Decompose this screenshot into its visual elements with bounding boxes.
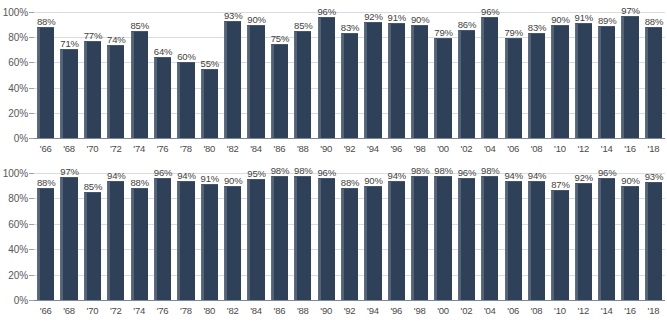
bar-cell: 88% — [642, 12, 665, 138]
bar-value-label: 79% — [504, 27, 522, 38]
bar-cell: 55% — [198, 12, 221, 138]
axis-baseline — [34, 300, 665, 301]
bar-cell: 64% — [151, 12, 174, 138]
bar: 88% — [341, 188, 358, 300]
bar-value-label: 85% — [84, 181, 102, 192]
x-tick-label: '98 — [408, 140, 431, 158]
bar-value-label: 93% — [645, 171, 663, 182]
x-tick-label: '18 — [642, 302, 665, 320]
bar-cell: 96% — [315, 173, 338, 300]
x-tick-label: '16 — [618, 140, 641, 158]
chart-page: 100%80%60%40%20%0% 88%71%77%74%85%64%60%… — [0, 0, 667, 322]
bar: 75% — [271, 44, 288, 139]
x-tick-label: '80 — [198, 140, 221, 158]
y-tick-label: 80% — [8, 32, 28, 43]
x-tick-label: '84 — [244, 140, 267, 158]
bar-cell: 87% — [548, 173, 571, 300]
bar: 74% — [107, 45, 124, 138]
x-tick-label: '78 — [174, 140, 197, 158]
bar-cell: 90% — [361, 173, 384, 300]
y-tick-label: 0% — [14, 295, 28, 306]
bar-value-label: 71% — [60, 38, 78, 49]
x-tick-label: '66 — [34, 302, 57, 320]
bar: 79% — [505, 38, 522, 138]
bar: 85% — [84, 192, 101, 300]
bar: 96% — [154, 178, 171, 300]
bar-cell: 94% — [525, 173, 548, 300]
bar-value-label: 86% — [458, 19, 476, 30]
bar-cell: 88% — [34, 12, 57, 138]
x-tick-label: '14 — [595, 140, 618, 158]
bar-cell: 85% — [128, 12, 151, 138]
bar-cell: 88% — [338, 173, 361, 300]
bar: 89% — [598, 26, 615, 138]
bar: 90% — [621, 186, 638, 300]
bar-cell: 93% — [642, 173, 665, 300]
bar: 94% — [177, 181, 194, 300]
y-tick-label: 80% — [8, 193, 28, 204]
x-tick-label: '66 — [34, 140, 57, 158]
bar-cell: 90% — [244, 12, 267, 138]
bar-cell: 79% — [502, 12, 525, 138]
bar-cell: 96% — [478, 12, 501, 138]
bar-value-label: 91% — [201, 173, 219, 184]
bar: 97% — [621, 16, 638, 138]
bar: 98% — [271, 176, 288, 300]
bar: 98% — [411, 176, 428, 300]
bar: 91% — [201, 184, 218, 300]
bar-value-label: 98% — [434, 165, 452, 176]
bar-cell: 91% — [198, 173, 221, 300]
bar: 86% — [458, 30, 475, 138]
x-tick-label: '84 — [244, 302, 267, 320]
bar: 90% — [411, 25, 428, 138]
x-tick-label: '02 — [455, 140, 478, 158]
plot-area-top: 88%71%77%74%85%64%60%55%93%90%75%85%96%8… — [34, 12, 665, 138]
bar: 93% — [645, 182, 662, 300]
bar: 97% — [60, 177, 77, 300]
x-tick-label: '86 — [268, 140, 291, 158]
bar: 95% — [247, 179, 264, 300]
x-tick-label: '76 — [151, 140, 174, 158]
y-tick-label: 100% — [3, 7, 28, 18]
x-tick-label: '04 — [478, 302, 501, 320]
x-tick-label: '80 — [198, 302, 221, 320]
bar-value-label: 60% — [177, 51, 195, 62]
bar-cell: 79% — [431, 12, 454, 138]
bar-value-label: 95% — [247, 168, 265, 179]
x-tick-label: '08 — [525, 140, 548, 158]
bar-value-label: 96% — [317, 167, 335, 178]
bar: 91% — [575, 23, 592, 138]
x-tick-label: '82 — [221, 302, 244, 320]
bar-value-label: 85% — [130, 20, 148, 31]
bar-cell: 97% — [57, 173, 80, 300]
bar: 85% — [131, 31, 148, 138]
x-tick-label: '68 — [57, 302, 80, 320]
bar-value-label: 55% — [201, 58, 219, 69]
bar-value-label: 96% — [481, 6, 499, 17]
bar: 64% — [154, 57, 171, 138]
bar-value-label: 98% — [294, 165, 312, 176]
bar-value-label: 91% — [388, 12, 406, 23]
bar-value-label: 90% — [621, 175, 639, 186]
bar: 88% — [645, 27, 662, 138]
x-axis-labels-bottom: '66'68'70'72'74'76'78'80'82'84'86'88'90'… — [34, 302, 665, 320]
bar-cell: 88% — [128, 173, 151, 300]
bar-cell: 96% — [315, 12, 338, 138]
bar-cell: 94% — [502, 173, 525, 300]
bar: 83% — [528, 33, 545, 138]
x-tick-label: '12 — [572, 302, 595, 320]
bar: 88% — [131, 188, 148, 300]
y-tick-mark — [29, 138, 34, 139]
bar: 77% — [84, 41, 101, 138]
bar-series-top: 88%71%77%74%85%64%60%55%93%90%75%85%96%8… — [34, 12, 665, 138]
x-tick-label: '00 — [431, 140, 454, 158]
y-tick-label: 20% — [8, 269, 28, 280]
x-tick-label: '76 — [151, 302, 174, 320]
bar-value-label: 94% — [177, 170, 195, 181]
bar-cell: 94% — [104, 173, 127, 300]
bar-cell: 95% — [244, 173, 267, 300]
bar-value-label: 94% — [107, 170, 125, 181]
bar-value-label: 93% — [224, 10, 242, 21]
bar-cell: 91% — [385, 12, 408, 138]
x-tick-label: '90 — [315, 140, 338, 158]
